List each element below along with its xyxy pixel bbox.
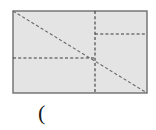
caption-row: ( [0,98,156,128]
caption-paren-glyph: ( [38,102,45,124]
figure-canvas: ( [0,0,156,130]
